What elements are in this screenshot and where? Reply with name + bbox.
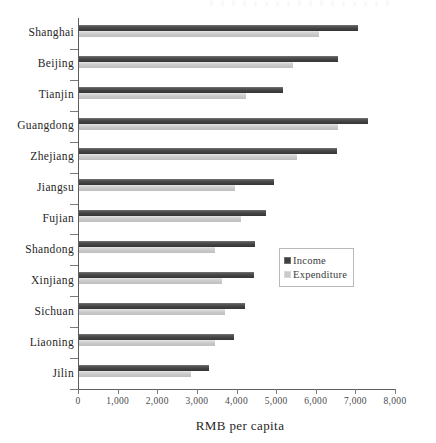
legend-label: Income [293,255,326,266]
category-row: Sichuan [0,296,436,327]
category-label: Jilin [0,367,74,379]
bar-expenditure [79,309,225,315]
category-row: Xinjiang [0,265,436,296]
chart-legend: IncomeExpenditure [279,248,354,287]
legend-swatch-income-icon [284,257,291,264]
category-label: Beijing [0,57,74,69]
category-label: Guangdong [0,119,74,131]
x-axis-tick [355,389,356,394]
category-row: Liaoning [0,327,436,358]
x-axis-tick [276,389,277,394]
bar-expenditure [79,62,293,68]
legend-item: Expenditure [284,267,347,281]
category-label: Xinjiang [0,274,74,286]
category-row: Jilin [0,358,436,389]
category-label: Sichuan [0,305,74,317]
x-axis-tick [197,389,198,394]
bar-expenditure [79,247,215,253]
legend-label: Expenditure [293,269,347,280]
x-axis-tick-label: 8,000 [365,396,425,406]
category-label: Liaoning [0,336,74,348]
bar-expenditure [79,124,338,130]
bar-expenditure [79,216,241,222]
legend-item: Income [284,253,347,267]
category-row: Beijing [0,49,436,80]
bar-expenditure [79,340,215,346]
category-row: Jiangsu [0,173,436,204]
category-row: Shandong [0,234,436,265]
category-label: Fujian [0,212,74,224]
category-row: Fujian [0,204,436,235]
category-label: Tianjin [0,88,74,100]
y-axis-tick [70,389,78,390]
x-axis-tick [316,389,317,394]
bar-expenditure [79,154,297,160]
x-axis-title: RMB per capita [0,418,436,434]
bar-expenditure [79,185,235,191]
x-axis-tick [78,389,79,394]
horizontal-bar-chart: ShanghaiBeijingTianjinGuangdongZhejiangJ… [0,0,436,443]
bar-expenditure [79,31,319,37]
x-axis-tick [157,389,158,394]
scan-artifact [210,1,390,6]
category-row: Guangdong [0,111,436,142]
bar-expenditure [79,278,222,284]
x-axis-tick [395,389,396,394]
category-label: Zhejiang [0,150,74,162]
category-label: Jiangsu [0,181,74,193]
category-row: Tianjin [0,80,436,111]
x-axis-tick [118,389,119,394]
legend-swatch-exp-icon [284,271,291,278]
category-row: Shanghai [0,18,436,49]
x-axis-title-text: RMB per capita [196,418,285,433]
bar-expenditure [79,93,246,99]
category-label: Shanghai [0,26,74,38]
category-label: Shandong [0,243,74,255]
category-row: Zhejiang [0,142,436,173]
bar-expenditure [79,371,191,377]
x-axis-tick [237,389,238,394]
